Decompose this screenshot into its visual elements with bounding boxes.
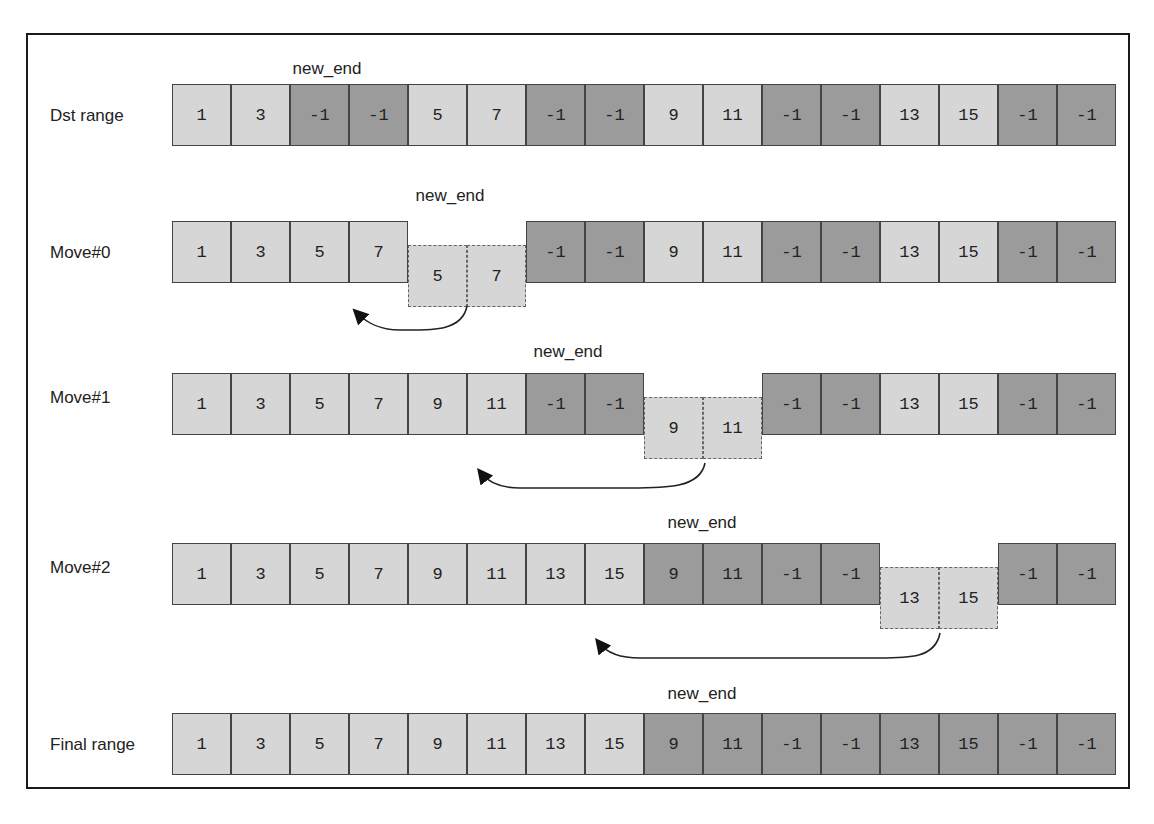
array-cell: 15 xyxy=(585,713,644,775)
array-cell: 7 xyxy=(349,713,408,775)
array-cell: -1 xyxy=(290,84,349,146)
array-cell: 3 xyxy=(231,713,290,775)
array-cell: 3 xyxy=(231,84,290,146)
row-label: Move#0 xyxy=(50,243,110,263)
array-cell: -1 xyxy=(1057,84,1116,146)
array-cell: 11 xyxy=(467,543,526,605)
array-cell: 13 xyxy=(526,543,585,605)
array-cell: 11 xyxy=(703,84,762,146)
array-cell: 1 xyxy=(172,221,231,283)
array-cell: 9 xyxy=(408,713,467,775)
array-cell: 3 xyxy=(231,221,290,283)
array-cell: -1 xyxy=(1057,713,1116,775)
array-cell: -1 xyxy=(526,221,585,283)
array-cell: -1 xyxy=(585,221,644,283)
array-cell: 5 xyxy=(290,373,349,435)
array-cell: -1 xyxy=(762,373,821,435)
array-cell: 13 xyxy=(880,84,939,146)
array-cell: 1 xyxy=(172,373,231,435)
array-cell: 7 xyxy=(349,373,408,435)
array-cell: 15 xyxy=(939,221,998,283)
array-cell: 1 xyxy=(172,543,231,605)
array-cell: 13 xyxy=(526,713,585,775)
array-cell: 3 xyxy=(231,373,290,435)
array-cell: -1 xyxy=(998,543,1057,605)
array-cell: 5 xyxy=(408,84,467,146)
array-cell: 3 xyxy=(231,543,290,605)
array-cell: 11 xyxy=(467,713,526,775)
moved-cell: 5 xyxy=(408,245,467,307)
moved-cell: 7 xyxy=(467,245,526,307)
array-cell: 5 xyxy=(290,713,349,775)
array-cell: -1 xyxy=(762,221,821,283)
array-cell: -1 xyxy=(821,543,880,605)
array-cell: -1 xyxy=(821,221,880,283)
array-cell: 9 xyxy=(644,713,703,775)
array-cell: 9 xyxy=(408,373,467,435)
array-cell: -1 xyxy=(762,713,821,775)
moved-cell: 13 xyxy=(880,567,939,629)
row-label: Final range xyxy=(50,735,135,755)
array-cell: 15 xyxy=(585,543,644,605)
array-cell: 5 xyxy=(290,543,349,605)
array-cell: 13 xyxy=(880,373,939,435)
new-end-marker: new_end xyxy=(667,513,736,533)
array-cell: -1 xyxy=(821,84,880,146)
array-cell: 11 xyxy=(703,221,762,283)
array-cell: 9 xyxy=(408,543,467,605)
array-cell: -1 xyxy=(762,543,821,605)
moved-cell: 15 xyxy=(939,567,998,629)
row-label: Move#2 xyxy=(50,558,110,578)
row-label: Dst range xyxy=(50,106,124,126)
array-cell: 9 xyxy=(644,543,703,605)
array-cell: 15 xyxy=(939,373,998,435)
array-cell: -1 xyxy=(821,713,880,775)
array-cell: -1 xyxy=(762,84,821,146)
array-cell: 11 xyxy=(467,373,526,435)
array-cell: 11 xyxy=(703,713,762,775)
moved-cell: 9 xyxy=(644,397,703,459)
array-cell: -1 xyxy=(1057,373,1116,435)
array-cell: -1 xyxy=(585,84,644,146)
array-cell: 9 xyxy=(644,221,703,283)
array-cell: 9 xyxy=(644,84,703,146)
array-cell: 7 xyxy=(349,221,408,283)
new-end-marker: new_end xyxy=(667,684,736,704)
array-cell: -1 xyxy=(349,84,408,146)
array-cell: 7 xyxy=(467,84,526,146)
array-cell: -1 xyxy=(998,373,1057,435)
new-end-marker: new_end xyxy=(533,342,602,362)
array-cell: 13 xyxy=(880,221,939,283)
array-cell: -1 xyxy=(998,713,1057,775)
moved-cell: 11 xyxy=(703,397,762,459)
array-cell: 1 xyxy=(172,713,231,775)
array-cell: 5 xyxy=(290,221,349,283)
array-cell: 15 xyxy=(939,713,998,775)
array-cell: -1 xyxy=(998,221,1057,283)
array-cell: -1 xyxy=(1057,221,1116,283)
new-end-marker: new_end xyxy=(292,59,361,79)
array-cell: -1 xyxy=(585,373,644,435)
array-cell: 15 xyxy=(939,84,998,146)
array-cell: 1 xyxy=(172,84,231,146)
array-cell: -1 xyxy=(526,84,585,146)
array-cell: 7 xyxy=(349,543,408,605)
array-cell: 13 xyxy=(880,713,939,775)
array-cell: -1 xyxy=(526,373,585,435)
array-cell: -1 xyxy=(821,373,880,435)
array-cell: 11 xyxy=(703,543,762,605)
array-cell: -1 xyxy=(1057,543,1116,605)
new-end-marker: new_end xyxy=(415,186,484,206)
row-label: Move#1 xyxy=(50,388,110,408)
array-cell: -1 xyxy=(998,84,1057,146)
